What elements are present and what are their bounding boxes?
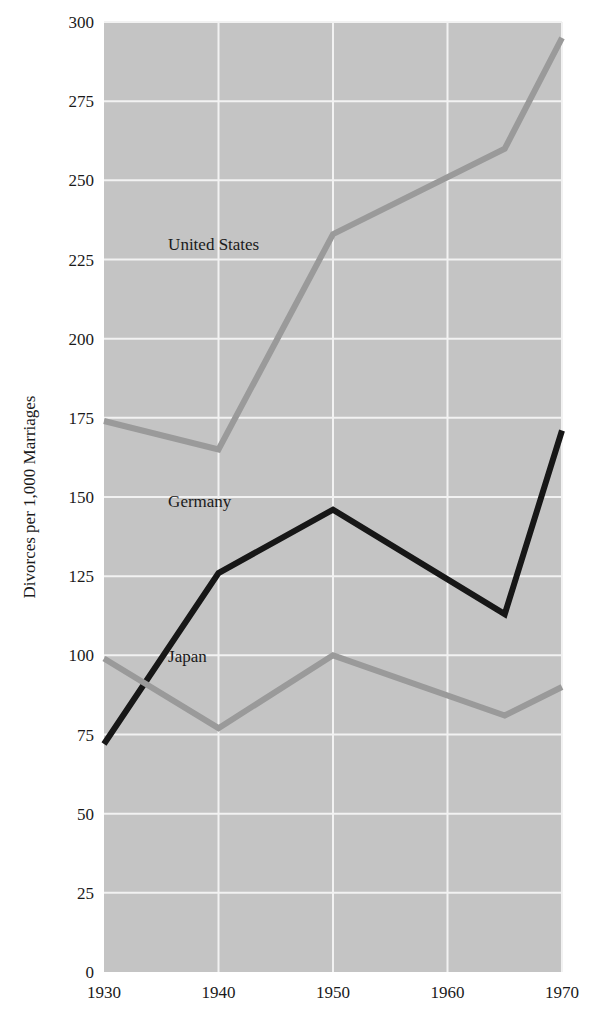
y-tick-label: 275 bbox=[69, 92, 95, 111]
series-label-united-states: United States bbox=[168, 235, 259, 254]
y-tick-label: 150 bbox=[69, 488, 95, 507]
y-tick-label: 100 bbox=[69, 646, 95, 665]
line-chart: 0255075100125150175200225250275300 19301… bbox=[0, 0, 591, 1022]
y-tick-label: 200 bbox=[69, 330, 95, 349]
y-tick-label: 75 bbox=[77, 726, 94, 745]
x-tick-label: 1950 bbox=[316, 983, 350, 1002]
y-tick-label: 125 bbox=[69, 567, 95, 586]
x-tick-label: 1960 bbox=[431, 983, 465, 1002]
y-tick-label: 50 bbox=[77, 805, 94, 824]
y-tick-label: 0 bbox=[86, 963, 95, 982]
y-tick-label: 25 bbox=[77, 884, 94, 903]
y-tick-label: 300 bbox=[69, 13, 95, 32]
x-tick-label: 1940 bbox=[202, 983, 236, 1002]
series-label-japan: Japan bbox=[168, 647, 207, 666]
y-axis-title: Divorces per 1,000 Marriages bbox=[20, 396, 39, 599]
series-label-germany: Germany bbox=[168, 492, 232, 511]
x-tick-label: 1930 bbox=[87, 983, 121, 1002]
y-tick-label: 175 bbox=[69, 409, 95, 428]
y-tick-label: 250 bbox=[69, 171, 95, 190]
chart-container: 0255075100125150175200225250275300 19301… bbox=[0, 0, 591, 1022]
x-tick-label: 1970 bbox=[545, 983, 579, 1002]
y-tick-label: 225 bbox=[69, 251, 95, 270]
